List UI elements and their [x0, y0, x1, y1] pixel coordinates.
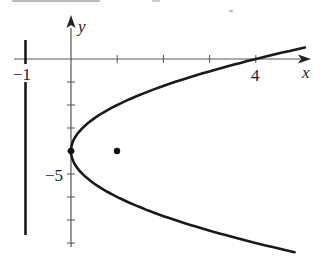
cropped-text-fragment-2	[152, 0, 160, 2]
parabola-curve	[71, 48, 305, 253]
tick-label-four: 4	[251, 66, 260, 85]
scan-speck	[229, 10, 233, 13]
tick-label-minus-one: −1	[13, 65, 31, 84]
tick-label-minus-five: −5	[45, 166, 63, 185]
y-axis-arrow-icon	[67, 15, 76, 28]
y-axis-label: y	[76, 17, 86, 36]
x-axis-label: x	[301, 63, 310, 82]
vertex-point	[68, 148, 74, 154]
parabola-graph: y x −1 4 −5	[0, 0, 323, 268]
y-axis	[67, 15, 76, 247]
focus-point	[114, 148, 120, 154]
cropped-text-fragment	[12, 0, 100, 2]
